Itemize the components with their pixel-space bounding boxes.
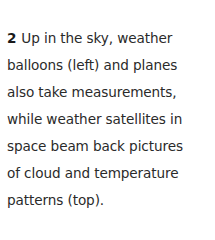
caption-line-4: while weather satellites in (7, 106, 213, 133)
caption-number: 2 (7, 30, 16, 46)
caption-line-6: of cloud and temperature (7, 160, 213, 187)
caption-line-1: 2Up in the sky, weather (7, 25, 213, 52)
caption-line-text: Up in the sky, weather (21, 30, 172, 46)
caption-line-3: also take measurements, (7, 79, 213, 106)
caption-line-5: space beam back pictures (7, 133, 213, 160)
caption-line-2: balloons (left) and planes (7, 52, 213, 79)
caption-line-7: patterns (top). (7, 187, 213, 214)
caption-text-block: 2Up in the sky, weather balloons (left) … (7, 25, 213, 214)
